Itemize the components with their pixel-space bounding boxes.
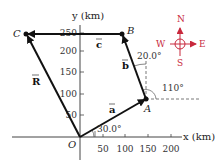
- angle-110-label: 110°: [162, 83, 184, 93]
- compass-E: E: [199, 39, 206, 49]
- point-C-label: C: [13, 28, 21, 39]
- angle-a-label: 30.0°: [97, 124, 122, 134]
- point-A-label: A: [143, 103, 151, 114]
- vector-diagram: 50 100 150 200 250 200 150 100 50 y (km)…: [0, 0, 223, 167]
- x-tick-100: 100: [116, 144, 133, 154]
- point-C: [24, 32, 29, 37]
- axes: 50 100 150 200 250 200 150 100 50 y (km)…: [12, 10, 215, 160]
- vector-R-label: R: [32, 76, 41, 87]
- x-axis-label: x (km): [183, 131, 215, 142]
- angle-labels: 30.0° 20.0° 110°: [97, 51, 184, 134]
- point-B: [120, 32, 125, 37]
- points: C B A: [13, 25, 151, 114]
- vector-c-label: c: [96, 39, 102, 50]
- origin-label: O: [68, 139, 76, 150]
- compass-rose: N S W E: [156, 14, 206, 68]
- compass-N: N: [177, 14, 185, 24]
- arc-20: [134, 64, 146, 66]
- x-tick-200: 200: [162, 144, 179, 154]
- vectors: [28, 34, 147, 137]
- vector-b-label: b: [122, 60, 129, 71]
- y-tick-100: 100: [60, 89, 77, 99]
- y-axis-label: y (km): [71, 10, 104, 21]
- x-tick-150: 150: [139, 144, 156, 154]
- vector-a-label: a: [109, 104, 116, 115]
- point-B-label: B: [126, 25, 134, 36]
- compass-W: W: [156, 39, 166, 49]
- y-tick-200: 200: [60, 46, 77, 56]
- x-tick-50: 50: [97, 144, 109, 154]
- y-tick-150: 150: [60, 67, 77, 77]
- angle-b-label: 20.0°: [137, 51, 162, 61]
- compass-S: S: [177, 58, 183, 68]
- point-A: [144, 97, 149, 102]
